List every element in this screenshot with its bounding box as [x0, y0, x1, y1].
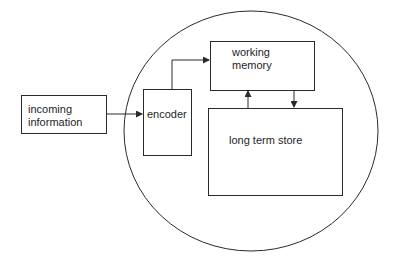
encoder-label: encoder — [147, 108, 187, 121]
working-memory-label: working memory — [232, 46, 272, 72]
working-memory-box: working memory — [210, 41, 315, 91]
encoder-box: encoder — [143, 89, 192, 156]
arrow-encoder-to-working-memory — [172, 60, 209, 89]
long-term-store-label: long term store — [229, 134, 302, 147]
incoming-information-box: incoming information — [21, 95, 107, 134]
long-term-store-box: long term store — [208, 108, 343, 196]
incoming-information-label: incoming information — [28, 103, 82, 129]
